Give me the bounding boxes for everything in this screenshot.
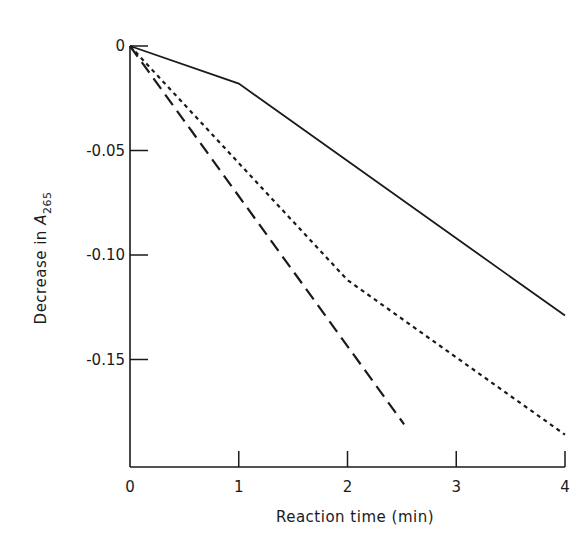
y-tick-label: 0 xyxy=(115,37,125,55)
x-tick-label: 0 xyxy=(125,478,135,496)
x-axis-title: Reaction time (min) xyxy=(276,508,434,526)
x-tick-label: 4 xyxy=(560,478,570,496)
series-line-dotted xyxy=(130,46,565,435)
y-axis-title-subscript: 265 xyxy=(41,192,54,215)
line-chart: 012340-0.05-0.10-0.15 Reaction time (min… xyxy=(0,0,579,549)
y-axis-title-prefix: Decrease in xyxy=(32,225,50,325)
y-axis-title-symbol: A xyxy=(32,214,50,226)
y-tick-label: -0.05 xyxy=(86,142,125,160)
y-tick-label: -0.15 xyxy=(86,351,125,369)
series-line-solid xyxy=(130,46,565,316)
y-tick-label: -0.10 xyxy=(86,246,125,264)
x-tick-label: 1 xyxy=(234,478,244,496)
x-tick-label: 2 xyxy=(343,478,353,496)
x-tick-label: 3 xyxy=(451,478,461,496)
series-group xyxy=(130,46,565,435)
y-axis-title: Decrease in A265 xyxy=(32,192,54,325)
